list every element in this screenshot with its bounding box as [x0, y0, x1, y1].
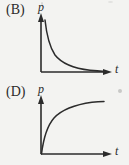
scan-speck-icon [108, 1, 113, 3]
option-panel-d: (D) p t [0, 82, 129, 165]
y-axis-b [38, 13, 44, 72]
option-panel-b: (B) p t [0, 0, 129, 83]
curve-rise-d [42, 102, 105, 155]
x-axis-b [41, 69, 112, 75]
plot-area-d [0, 82, 129, 165]
scan-speck-icon [118, 89, 122, 93]
scan-speck-icon [41, 2, 43, 5]
x-axis-d [41, 151, 112, 157]
curve-decay-b [45, 20, 105, 71]
figure-sheet: (B) p t (D) p t [0, 0, 129, 165]
plot-area-b [0, 0, 129, 83]
